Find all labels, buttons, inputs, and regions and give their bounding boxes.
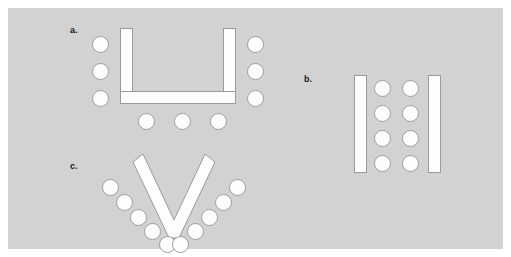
chair bbox=[215, 194, 232, 211]
u-shape-table-arrangement: a. bbox=[64, 16, 244, 126]
chair bbox=[402, 80, 419, 97]
arrangement-a-chairs-left bbox=[92, 36, 112, 116]
u-shape-table bbox=[120, 28, 240, 108]
chair bbox=[247, 36, 264, 53]
v-shape-table-arrangement: c. bbox=[64, 148, 284, 248]
chair bbox=[402, 130, 419, 147]
chair bbox=[247, 90, 264, 107]
chair bbox=[247, 63, 264, 80]
chair bbox=[210, 113, 227, 130]
chair bbox=[402, 105, 419, 122]
chair bbox=[374, 80, 391, 97]
arrangement-b-label: b. bbox=[304, 75, 312, 84]
b-right-slab bbox=[428, 75, 441, 173]
diagram-root: a. bbox=[0, 0, 511, 257]
chair bbox=[92, 63, 109, 80]
chair bbox=[187, 223, 204, 240]
arrangement-b-chairs-column-1 bbox=[374, 80, 394, 180]
chair bbox=[92, 90, 109, 107]
diagram-panel: a. bbox=[8, 8, 503, 249]
arrangement-a-chairs-right bbox=[247, 36, 267, 116]
chair bbox=[138, 113, 155, 130]
b-left-slab bbox=[354, 75, 367, 173]
chair bbox=[229, 179, 246, 196]
parallel-rows-table-arrangement: b. bbox=[298, 63, 438, 183]
chair bbox=[374, 130, 391, 147]
arrangement-a-label: a. bbox=[70, 26, 78, 35]
chair bbox=[374, 105, 391, 122]
chair bbox=[402, 155, 419, 172]
arrangement-a-chairs-bottom bbox=[138, 113, 238, 133]
u-bottom-slab bbox=[120, 91, 236, 104]
chair bbox=[172, 236, 189, 253]
chair bbox=[174, 113, 191, 130]
arrangement-c-chairs-right-arm bbox=[64, 148, 284, 248]
chair bbox=[92, 36, 109, 53]
chair bbox=[201, 209, 218, 226]
arrangement-b-chairs-column-2 bbox=[402, 80, 422, 180]
chair bbox=[374, 155, 391, 172]
